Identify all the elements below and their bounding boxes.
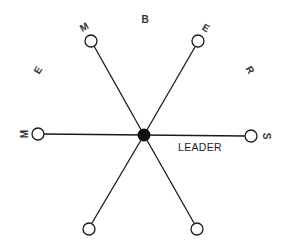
ring-letter-2: E bbox=[32, 64, 45, 76]
spoke-bottom-left bbox=[92, 135, 144, 223]
member-node-top-left bbox=[85, 35, 97, 47]
member-node-top-right bbox=[192, 35, 204, 47]
member-node-bottom-right bbox=[191, 223, 203, 235]
leader-hub bbox=[138, 129, 151, 142]
member-node-bottom-left bbox=[83, 223, 95, 235]
spoke-right bbox=[144, 135, 245, 136]
spoke-top-left bbox=[94, 46, 144, 135]
spoke-top-right bbox=[144, 47, 195, 135]
leader-label: LEADER bbox=[178, 141, 222, 153]
ring-letter-6: R bbox=[243, 64, 257, 76]
spoke-left bbox=[44, 134, 144, 135]
leader-network-diagram: LEADER M E M B E R S bbox=[0, 0, 285, 250]
ring-letter-7: S bbox=[261, 133, 272, 140]
ring-letter-3: M bbox=[78, 20, 91, 34]
member-node-left bbox=[32, 128, 44, 140]
ring-letter-5: E bbox=[200, 22, 212, 35]
ring-word-members: M E M B E R S bbox=[19, 14, 272, 140]
member-node-right bbox=[245, 130, 257, 142]
ring-letter-1: M bbox=[19, 130, 30, 138]
ring-letter-4: B bbox=[141, 14, 148, 25]
